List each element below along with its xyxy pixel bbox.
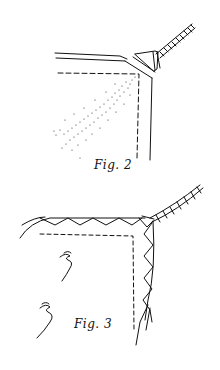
twisted-cord-icon-fig3 [150,185,203,222]
zigzag-stitch-right [143,223,153,310]
illustration-canvas [0,0,220,370]
figure-3-caption: Fig. 3 [74,317,112,331]
twisted-cord-icon [156,24,195,58]
fabric-right-edge [150,78,152,160]
squiggle-mark-1 [60,254,72,281]
figure-2-drawing [53,24,195,160]
dashed-seam [58,73,139,158]
spray-mist [53,76,135,158]
figure-2-caption: Fig. 2 [94,158,132,172]
dashed-seam-fig3 [40,234,134,330]
squiggle-mark-2 [37,305,52,338]
zigzag-stitch-top [40,218,142,225]
